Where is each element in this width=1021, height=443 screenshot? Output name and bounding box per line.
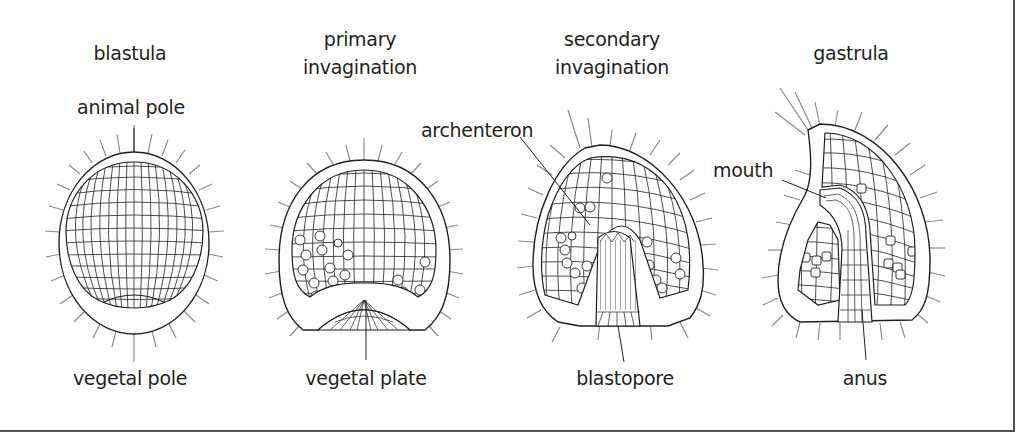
blastula-drawing [45,125,224,362]
diagram-drawings [0,0,1021,443]
secondary-invagination-drawing [517,110,718,362]
primary-invagination-drawing [265,138,463,360]
gastrula-drawing [762,88,945,360]
